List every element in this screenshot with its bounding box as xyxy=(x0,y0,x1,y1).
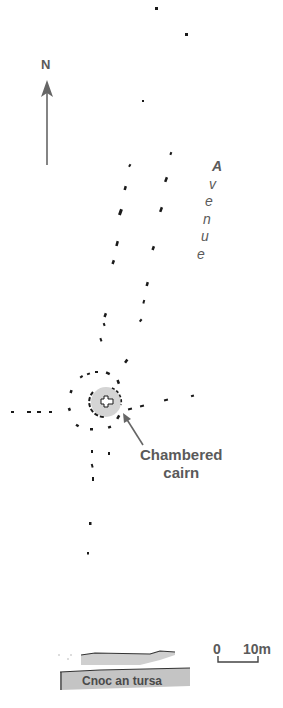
cairn-label-line: cairn xyxy=(140,464,223,482)
chambered-cairn-label: Chambered cairn xyxy=(140,446,223,482)
avenue-letter: e xyxy=(205,193,220,211)
hill-label: Cnoc an tursa xyxy=(82,674,162,688)
avenue-letter: u xyxy=(201,228,220,246)
scale-end-label: 10m xyxy=(243,641,271,657)
east-row xyxy=(128,395,194,411)
cairn-pointer-arrow-icon xyxy=(123,413,143,445)
south-row xyxy=(87,450,110,555)
west-row xyxy=(11,411,52,413)
outlier-stones xyxy=(142,7,188,102)
avenue-letter: v xyxy=(209,176,220,194)
avenue-letter: e xyxy=(197,246,220,264)
avenue-west-row xyxy=(99,164,131,364)
avenue-letter: n xyxy=(203,211,220,229)
avenue-letter: A xyxy=(212,158,220,176)
chambered-cairn xyxy=(89,387,121,417)
north-arrow-icon xyxy=(41,80,53,165)
cairn-label-line: Chambered xyxy=(140,446,223,464)
site-plan xyxy=(0,0,283,708)
scale-start-label: 0 xyxy=(213,641,221,657)
avenue-east-row xyxy=(139,152,172,322)
north-label: N xyxy=(41,57,50,72)
avenue-label: A v e n u e xyxy=(196,158,220,263)
